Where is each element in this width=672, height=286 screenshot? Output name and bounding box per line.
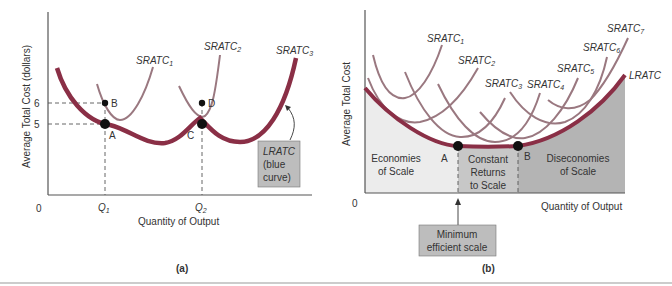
label-sratc3-b: SRATC3 [485, 78, 522, 90]
arrow-up-icon [455, 198, 461, 205]
region-dis-1: Diseconomies [547, 153, 610, 164]
origin-b: 0 [352, 198, 358, 209]
point-a [100, 119, 110, 129]
point-b [102, 100, 108, 106]
label-b-b: B [524, 151, 531, 162]
note-line2: (blue [263, 159, 286, 170]
caption-b: (b) [482, 263, 495, 274]
mes-line2: efficient scale [427, 242, 488, 253]
label-sratc3-a: SRATC3 [276, 45, 313, 57]
label-sratc2-b: SRATC2 [458, 55, 495, 67]
region-economies-1: Economies [371, 153, 420, 164]
sratc1-curve-b [373, 45, 442, 98]
panel-a: B A D C SRATC1 SRATC2 SRATC3 6 5 0 Q1 Q2… [21, 12, 313, 274]
note-line1: LRATC [263, 146, 296, 157]
figure: B A D C SRATC1 SRATC2 SRATC3 6 5 0 Q1 Q2… [0, 0, 672, 286]
point-a-b [453, 141, 463, 151]
panel-b: A B SRATC1 SRATC2 SRATC3 SRATC4 SRATC5 S… [341, 10, 662, 274]
tick-q2: Q2 [195, 202, 207, 214]
label-sratc4-b: SRATC4 [527, 79, 564, 91]
ylabel-b: Average Total Cost [341, 62, 352, 146]
label-sratc6-b: SRATC6 [583, 42, 620, 54]
label-lratc-b: LRATC [629, 70, 662, 81]
label-sratc5-b: SRATC5 [557, 63, 594, 75]
region-economies-2: of Scale [378, 166, 415, 177]
point-d [199, 100, 205, 106]
tick-6: 6 [34, 98, 40, 109]
point-b-b [513, 141, 523, 151]
mes-line1: Minimum [437, 229, 478, 240]
label-sratc2-a: SRATC2 [204, 41, 241, 53]
tick-q1: Q1 [98, 202, 110, 214]
label-a: A [109, 130, 116, 141]
point-c [197, 119, 207, 129]
label-sratc1-a: SRATC1 [136, 55, 173, 67]
region-constant-1: Constant [468, 154, 508, 165]
label-a-b: A [441, 153, 448, 164]
caption-a: (a) [176, 263, 188, 274]
xlabel-b: Quantity of Output [541, 201, 622, 212]
label-d: D [208, 98, 215, 109]
origin-a: 0 [36, 203, 42, 214]
label-sratc1-b: SRATC1 [427, 33, 464, 45]
note-line3: curve) [263, 172, 291, 183]
xlabel-a: Quantity of Output [138, 216, 219, 227]
tick-5: 5 [34, 119, 40, 130]
region-constant-3: to Scale [470, 180, 507, 191]
region-constant-2: Returns [470, 167, 505, 178]
arrow-head-icon [285, 105, 291, 111]
note-arrow [288, 108, 294, 140]
sratc4-curve-b [438, 84, 540, 142]
region-dis-2: of Scale [560, 166, 597, 177]
lratc-curve-a [57, 58, 296, 143]
label-c: C [187, 130, 194, 141]
ylabel-a: Average Total Cost (dollars) [21, 45, 32, 168]
label-b: B [111, 98, 118, 109]
label-sratc7-b: SRATC7 [607, 23, 645, 35]
